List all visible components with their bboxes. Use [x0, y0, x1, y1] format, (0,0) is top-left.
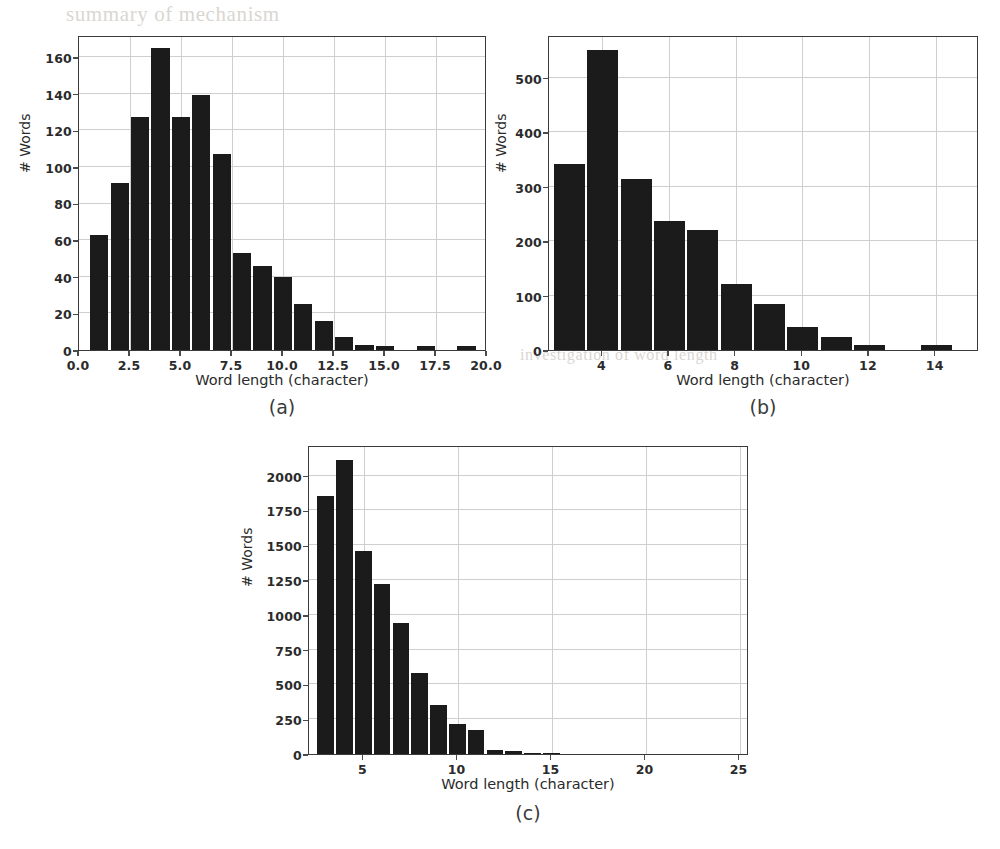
x-axis-tick-mark [456, 755, 457, 760]
x-axis-tick-label: 7.5 [220, 358, 243, 373]
histogram-bar [172, 117, 190, 350]
grid-line-vertical [802, 37, 803, 350]
grid-line-horizontal [309, 579, 747, 580]
x-axis-tick-mark [383, 351, 384, 356]
grid-line-horizontal [309, 544, 747, 545]
histogram-panel-b: # Words Word length (character) (b) 0100… [500, 0, 1000, 420]
x-axis-tick-label: 20.0 [470, 358, 502, 373]
y-axis-tick-label: 1000 [262, 608, 302, 623]
grid-line-horizontal [79, 93, 485, 94]
histogram-panel-c: # Words Word length (character) (c) 0250… [228, 424, 772, 849]
y-axis-tick-mark [543, 350, 548, 351]
x-axis-tick-mark [332, 351, 333, 356]
y-axis-tick-mark [73, 314, 78, 315]
y-axis-label-c: # Words [232, 564, 262, 644]
histogram-bar [721, 284, 752, 350]
x-axis-tick-mark [738, 755, 739, 760]
histogram-bar [587, 50, 618, 350]
x-axis-tick-label: 17.5 [419, 358, 451, 373]
grid-line-vertical [646, 447, 647, 754]
histogram-bar [621, 179, 652, 350]
y-axis-tick-mark [303, 476, 308, 477]
x-axis-tick-label: 10 [792, 358, 810, 373]
histogram-bar [355, 551, 372, 754]
y-axis-tick-label: 160 [32, 50, 72, 65]
x-axis-tick-mark [667, 351, 668, 356]
y-axis-tick-label: 100 [32, 160, 72, 175]
histogram-bar [131, 117, 149, 350]
x-axis-tick-mark [434, 351, 435, 356]
histogram-bar [449, 724, 466, 754]
y-axis-tick-label: 2000 [262, 469, 302, 484]
histogram-bar [754, 304, 785, 350]
grid-line-horizontal [309, 509, 747, 510]
histogram-bar [317, 496, 334, 754]
x-axis-tick-label: 14 [926, 358, 944, 373]
plot-area-c [308, 446, 748, 755]
histogram-bar [654, 221, 685, 350]
x-axis-tick-mark [485, 351, 486, 356]
histogram-bar [376, 346, 394, 350]
x-axis-tick-label: 0.0 [67, 358, 90, 373]
y-axis-tick-label: 1500 [262, 539, 302, 554]
y-axis-tick-label: 500 [262, 678, 302, 693]
y-axis-tick-mark [303, 511, 308, 512]
x-axis-tick-mark [128, 351, 129, 356]
y-axis-tick-label: 400 [502, 126, 542, 141]
y-axis-tick-label: 60 [32, 234, 72, 249]
y-axis-tick-mark [73, 277, 78, 278]
x-axis-tick-mark [77, 351, 78, 356]
histogram-bar [854, 345, 885, 350]
y-axis-tick-mark [73, 204, 78, 205]
x-axis-tick-label: 5 [358, 762, 367, 777]
x-axis-tick-mark [281, 351, 282, 356]
histogram-bar [192, 95, 210, 350]
y-axis-tick-mark [303, 580, 308, 581]
histogram-bar [355, 345, 373, 350]
x-axis-tick-label: 15.0 [368, 358, 400, 373]
y-axis-tick-mark [73, 240, 78, 241]
x-axis-tick-label: 20 [636, 762, 654, 777]
histogram-bar [787, 327, 818, 350]
y-axis-tick-label: 0 [502, 344, 542, 359]
y-axis-tick-mark [73, 167, 78, 168]
y-axis-tick-label: 20 [32, 307, 72, 322]
x-axis-tick-mark [230, 351, 231, 356]
x-axis-tick-label: 8 [730, 358, 739, 373]
histogram-bar [336, 460, 353, 754]
histogram-bar [487, 750, 504, 754]
x-axis-tick-mark [934, 351, 935, 356]
histogram-bar [233, 253, 251, 350]
x-axis-tick-label: 2.5 [118, 358, 141, 373]
x-axis-label-a: Word length (character) [78, 372, 486, 388]
plot-area-b [548, 36, 978, 351]
histogram-bar [315, 321, 333, 350]
histogram-bar [417, 346, 435, 350]
x-axis-label-b: Word length (character) [548, 372, 978, 388]
x-axis-tick-label: 5.0 [169, 358, 192, 373]
histogram-bar [554, 164, 585, 350]
histogram-bar [457, 346, 475, 350]
y-axis-tick-mark [73, 94, 78, 95]
histogram-bar [687, 230, 718, 350]
panel-caption-c: (c) [308, 802, 748, 824]
y-axis-tick-label: 750 [262, 643, 302, 658]
y-axis-tick-mark [543, 296, 548, 297]
x-axis-tick-mark [601, 351, 602, 356]
x-axis-tick-label: 12.5 [317, 358, 349, 373]
y-axis-tick-mark [303, 650, 308, 651]
grid-line-horizontal [309, 475, 747, 476]
y-axis-tick-label: 1250 [262, 574, 302, 589]
y-axis-label-c-text: # Words [239, 557, 255, 587]
y-axis-tick-label: 500 [502, 71, 542, 86]
y-axis-tick-mark [73, 57, 78, 58]
grid-line-vertical [436, 37, 437, 350]
y-axis-tick-label: 300 [502, 180, 542, 195]
y-axis-tick-mark [303, 754, 308, 755]
y-axis-tick-mark [303, 720, 308, 721]
histogram-bar [543, 753, 560, 755]
grid-line-vertical [458, 447, 459, 754]
panel-caption-a: (a) [78, 396, 486, 418]
grid-line-vertical [936, 37, 937, 350]
y-axis-tick-label: 100 [502, 289, 542, 304]
